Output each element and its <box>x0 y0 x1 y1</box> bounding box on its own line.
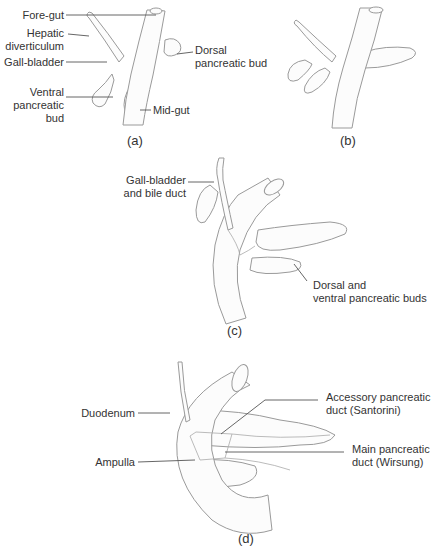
label-accessory-duct-line2: duct (Santorini) <box>326 404 401 417</box>
label-pancreatic-buds-line2: ventral pancreatic buds <box>313 292 427 305</box>
label-ventral-line1: Ventral <box>0 86 64 99</box>
label-ampulla: Ampulla <box>40 456 135 469</box>
label-ventral-line3: bud <box>0 112 64 125</box>
label-mid-gut: Mid-gut <box>153 104 190 117</box>
panel-d-drawing <box>177 362 335 533</box>
label-gall-bladder-bile-duct-line2: and bile duct <box>100 187 186 200</box>
label-dorsal-line1: Dorsal <box>195 44 227 57</box>
label-duodenum: Duodenum <box>40 407 135 420</box>
label-accessory-duct-line1: Accessory pancreatic <box>326 391 431 404</box>
label-main-duct-line2: duct (Wirsung) <box>352 456 424 469</box>
label-hepatic-line2: diverticulum <box>0 40 64 53</box>
caption-d: (d) <box>238 531 254 546</box>
caption-a: (a) <box>127 133 143 148</box>
label-fore-gut: Fore-gut <box>0 9 64 22</box>
label-ventral-line2: pancreatic <box>0 99 64 112</box>
label-main-duct-line1: Main pancreatic <box>352 443 430 456</box>
label-hepatic-line1: Hepatic <box>0 27 64 40</box>
label-dorsal-line2: pancreatic bud <box>195 57 267 70</box>
caption-b: (b) <box>340 133 356 148</box>
label-gall-bladder: Gall-bladder <box>0 56 64 69</box>
label-gall-bladder-bile-duct-line1: Gall-bladder <box>100 174 186 187</box>
caption-c: (c) <box>227 323 242 338</box>
panel-b-drawing <box>288 7 416 128</box>
label-pancreatic-buds-line1: Dorsal and <box>313 279 366 292</box>
